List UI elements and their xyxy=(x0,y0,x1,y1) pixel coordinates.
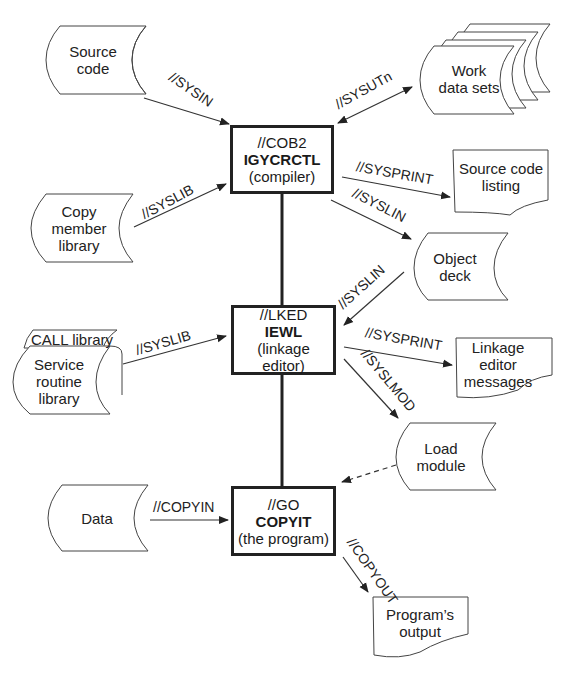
service-routine-library-line1: Service xyxy=(24,356,94,373)
step-link-program: IEWL xyxy=(265,323,303,340)
step-link-box: //LKED IEWL (linkage editor) xyxy=(231,305,336,375)
step-go-desc: (the program) xyxy=(238,530,329,547)
linkage-editor-messages-line1: Linkage xyxy=(458,339,538,356)
programs-output-label: Program’s output xyxy=(375,606,465,640)
copy-member-library-line3: library xyxy=(42,237,116,254)
step-go-box: //GO COPYIT (the program) xyxy=(231,486,336,556)
step-compile-program: IGYCRCTL xyxy=(244,151,321,168)
data-label: Data xyxy=(62,510,132,527)
source-code-listing-line2: listing xyxy=(456,177,546,194)
load-module-line1: Load xyxy=(404,440,478,457)
programs-output-line1: Program’s xyxy=(375,606,465,623)
arrow-sysin xyxy=(144,98,229,124)
arrow-load-module-to-go xyxy=(342,465,396,482)
copy-member-library-line2: member xyxy=(42,220,116,237)
service-routine-library-label: Service routine library xyxy=(24,356,94,407)
linkage-editor-messages-line2: editor xyxy=(458,356,538,373)
object-deck-line2: deck xyxy=(424,267,486,284)
service-routine-library-line2: routine xyxy=(24,373,94,390)
load-module-label: Load module xyxy=(404,440,478,474)
step-link-desc1: (linkage xyxy=(257,340,310,357)
programs-output-line2: output xyxy=(375,623,465,640)
source-code-line1: Source xyxy=(58,43,128,60)
step-go-dd: //GO xyxy=(268,496,300,513)
dd-label-copyin: //COPYIN xyxy=(153,499,214,515)
step-go-program: COPYIT xyxy=(256,513,312,530)
linkage-editor-messages-label: Linkage editor messages xyxy=(458,339,538,390)
work-data-sets-line1: Work xyxy=(432,62,506,79)
linkage-editor-messages-line3: messages xyxy=(458,373,538,390)
source-code-listing-label: Source code listing xyxy=(456,160,546,194)
object-deck-label: Object deck xyxy=(424,250,486,284)
work-data-sets-label: Work data sets xyxy=(432,62,506,96)
load-module-line2: module xyxy=(404,457,478,474)
step-compile-box: //COB2 IGYCRCTL (compiler) xyxy=(230,125,334,194)
object-deck-line1: Object xyxy=(424,250,486,267)
source-code-line2: code xyxy=(58,60,128,77)
step-compile-dd: //COB2 xyxy=(257,134,306,151)
copy-member-library-line1: Copy xyxy=(42,203,116,220)
call-library-label: CALL library xyxy=(28,331,116,348)
source-code-listing-line1: Source code xyxy=(456,160,546,177)
step-link-dd: //LKED xyxy=(260,306,308,323)
service-routine-library-line3: library xyxy=(24,390,94,407)
step-compile-desc: (compiler) xyxy=(249,168,316,185)
step-link-desc2: editor) xyxy=(262,357,305,374)
source-code-label: Source code xyxy=(58,43,128,77)
work-data-sets-line2: data sets xyxy=(432,79,506,96)
copy-member-library-label: Copy member library xyxy=(42,203,116,254)
